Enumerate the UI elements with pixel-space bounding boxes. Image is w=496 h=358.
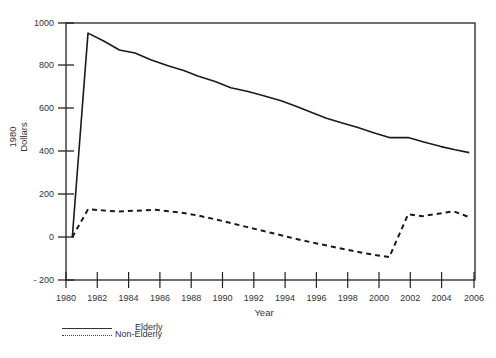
- x-tick-label: 2002: [400, 293, 420, 303]
- x-tick-label: 2000: [369, 293, 389, 303]
- x-tick-label: 1986: [150, 293, 170, 303]
- x-tick-labels: 1980 1982 1984 1986 1988 1990 1992 1994 …: [56, 293, 484, 303]
- legend-swatch-dotted: [62, 335, 112, 336]
- x-tick-label: 1990: [212, 293, 232, 303]
- x-tick-label: 1982: [87, 293, 107, 303]
- plot-frame: [66, 23, 475, 280]
- y-tick-label: 400: [39, 146, 54, 156]
- y-tick-labels: 1000 800 600 400 200 0 - 200: [33, 18, 54, 285]
- x-tick-label: 1996: [306, 293, 326, 303]
- y-axis-label-line2: Dollars: [18, 122, 29, 152]
- x-tick-label: 1984: [119, 293, 139, 303]
- series-line-non-elderly: [72, 209, 469, 257]
- y-tick-label: 200: [39, 189, 54, 199]
- legend-swatch-solid: [62, 328, 112, 329]
- x-axis-label: Year: [254, 307, 273, 318]
- y-tick-label: 1000: [34, 18, 54, 28]
- y-axis-label-line1: 1980: [7, 126, 18, 147]
- x-tick-label: 1998: [338, 293, 358, 303]
- y-axis-label: 1980 Dollars: [7, 122, 29, 152]
- legend-item-non-elderly: Non-Elderly: [62, 332, 182, 339]
- x-tick-label: 1988: [181, 293, 201, 303]
- y-tick-label: - 200: [33, 275, 54, 285]
- legend: Elderly Non-Elderly: [62, 325, 182, 339]
- x-tick-label: 1994: [275, 293, 295, 303]
- y-tick-label: 0: [49, 232, 54, 242]
- legend-label: Non-Elderly: [115, 329, 162, 339]
- line-chart: 1000 800 600 400 200 0 - 200 1980 Dollar…: [0, 0, 496, 358]
- y-tick-label: 800: [39, 60, 54, 70]
- x-tick-label: 2006: [464, 293, 484, 303]
- x-tick-label: 1992: [244, 293, 264, 303]
- y-tick-label: 600: [39, 103, 54, 113]
- x-tick-label: 2004: [432, 293, 452, 303]
- x-tick-label: 1980: [56, 293, 76, 303]
- series-line-elderly: [72, 33, 469, 237]
